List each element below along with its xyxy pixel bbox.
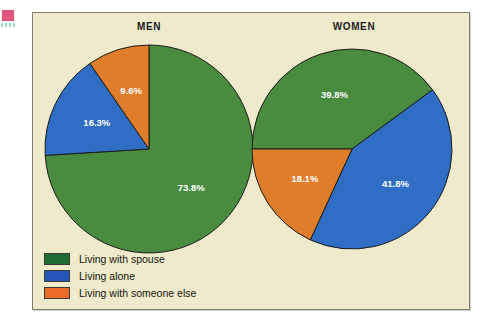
pie-titles: MEN WOMEN: [33, 21, 469, 37]
chart-panel: MEN WOMEN 73.8%16.3%9.6% 39.8%41.8%18.1%…: [32, 12, 470, 310]
legend-label-spouse: Living with spouse: [79, 253, 165, 265]
pie-title-men: MEN: [137, 21, 161, 32]
legend-item-alone: Living alone: [44, 268, 294, 284]
teal-dash-artifact: [1, 23, 17, 27]
legend-swatch-someone-else: [44, 287, 70, 299]
pie-slice-label: 18.1%: [291, 173, 318, 184]
pie-slice-label: 16.3%: [83, 117, 110, 128]
pie-chart-women-svg: 39.8%41.8%18.1%: [246, 43, 458, 255]
chart-legend: Living with spouse Living alone Living w…: [44, 251, 294, 302]
legend-label-alone: Living alone: [79, 270, 135, 282]
pink-mark-artifact: [2, 10, 14, 21]
legend-label-someone-else: Living with someone else: [79, 287, 196, 299]
pie-slice-label: 9.6%: [120, 85, 142, 96]
scan-edge-artifacts: [0, 0, 32, 326]
legend-item-spouse: Living with spouse: [44, 251, 294, 267]
pie-slice-label: 39.8%: [321, 89, 348, 100]
pie-slice-label: 41.8%: [382, 178, 409, 189]
legend-swatch-spouse: [44, 253, 70, 265]
pie-chart-men-svg: 73.8%16.3%9.6%: [39, 39, 259, 259]
pie-slice-label: 73.8%: [178, 182, 205, 193]
legend-item-someone-else: Living with someone else: [44, 285, 294, 301]
pie-title-women: WOMEN: [333, 21, 375, 32]
legend-swatch-alone: [44, 270, 70, 282]
pie-chart-women: 39.8%41.8%18.1%: [246, 43, 458, 255]
pie-chart-men: 73.8%16.3%9.6%: [39, 39, 259, 259]
